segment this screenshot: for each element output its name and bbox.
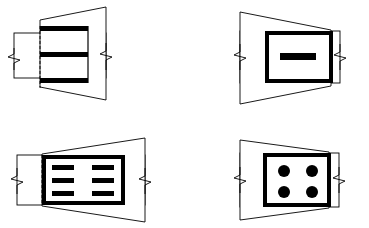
stripe-bar — [40, 52, 88, 57]
technical-drawing-canvas — [0, 0, 369, 228]
figure-1 — [8, 7, 112, 100]
figure-3 — [11, 138, 151, 222]
grid-dot — [278, 165, 290, 177]
grid-bar — [92, 178, 114, 183]
grid-bar — [52, 191, 74, 196]
center-bar — [280, 53, 316, 60]
grid-bar — [52, 178, 74, 183]
grid-dot — [306, 165, 318, 177]
figure-2 — [234, 12, 346, 104]
figure-sheet — [0, 0, 369, 228]
grid-dot — [306, 186, 318, 198]
stripe-bar — [40, 78, 88, 83]
stripe-bar — [40, 26, 88, 31]
bold-frame-panel — [265, 155, 329, 205]
grid-bar — [92, 165, 114, 170]
grid-dot — [278, 186, 290, 198]
grid-bar — [52, 165, 74, 170]
grid-bar — [92, 191, 114, 196]
figure-4 — [234, 140, 345, 220]
